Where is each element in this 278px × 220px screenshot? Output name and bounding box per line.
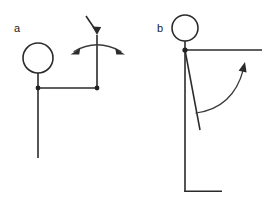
panel-a-joint-right: [95, 86, 100, 91]
panel-a-joint-left: [36, 86, 41, 91]
panel-a-arc-left-arrowhead-icon: [71, 49, 81, 55]
panel-a-arc-right-arrowhead-icon: [115, 49, 125, 55]
panel-a-down-arrow-icon: [92, 26, 101, 35]
panel-a-label: a: [14, 22, 21, 34]
panel-b: b: [157, 15, 262, 192]
panel-a-head-circle: [23, 43, 53, 73]
diagram-canvas: a b: [0, 0, 278, 220]
panel-b-joint-shoulder: [182, 47, 187, 52]
panel-b-head-circle: [172, 15, 198, 41]
panel-b-sweep-arrowhead-icon: [239, 62, 247, 72]
panel-a: a: [14, 16, 125, 158]
panel-b-sweep-arc: [196, 70, 243, 113]
panel-b-label: b: [157, 22, 163, 34]
panel-b-diagonal-leg-segment: [185, 50, 200, 130]
